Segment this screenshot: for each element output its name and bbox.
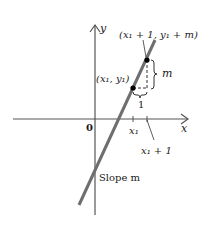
tick-label-x1plus1: x₁ + 1 <box>141 145 172 156</box>
p2-label: (x₁ + 1, y₁ + m) <box>119 29 198 40</box>
slope-label: Slope m <box>99 172 141 183</box>
x-axis-label: x <box>181 122 188 135</box>
run-label: 1 <box>138 99 144 110</box>
slope-diagram: y x 0 (x₁ + 1, y₁ + m) (x₁, y₁) m 1 x₁ x… <box>0 0 209 226</box>
rise-brace <box>151 60 157 89</box>
rise-label: m <box>162 67 172 80</box>
run-brace <box>133 92 147 98</box>
p2-leader <box>143 40 146 57</box>
origin-label: 0 <box>86 122 93 133</box>
x-axis <box>13 114 188 124</box>
y-axis <box>90 25 100 215</box>
point-p2 <box>144 57 149 62</box>
p1-label: (x₁, y₁) <box>96 73 130 84</box>
x1plus1-leader <box>147 120 154 140</box>
tick-label-x1: x₁ <box>129 125 139 136</box>
y-axis-label: y <box>99 22 107 35</box>
point-p1 <box>130 85 135 90</box>
